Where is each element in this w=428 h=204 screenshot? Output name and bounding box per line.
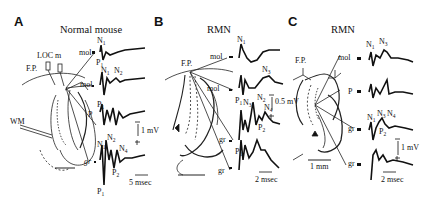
panel-b: B RMN xyxy=(145,0,285,204)
peak-n1: N1 xyxy=(367,114,376,123)
label-p: P xyxy=(348,88,352,96)
panel-c-cerebellum-diagram xyxy=(283,0,428,204)
panel-c: C RMN xyxy=(283,0,428,204)
label-gr-2: gr xyxy=(218,167,225,175)
label-mol-2: mol xyxy=(207,85,219,93)
label-mol-2: mol xyxy=(80,81,92,89)
peak-n1: N1 xyxy=(237,36,246,45)
peak-p2: P2 xyxy=(379,128,386,137)
peak-p1: P1 xyxy=(235,97,242,106)
peak-p1: P1 xyxy=(235,148,242,157)
peak-n4: N4 xyxy=(119,145,128,154)
peak-n4: N4 xyxy=(387,110,396,119)
peak-n1: N1 xyxy=(97,37,106,46)
panel-a-cerebellum-diagram xyxy=(0,0,145,204)
label-gr-2: gr xyxy=(348,160,355,168)
peak-n2: N2 xyxy=(257,94,266,103)
peak-p1: P1 xyxy=(97,188,104,197)
label-p: P xyxy=(88,111,92,119)
peak-n2: N2 xyxy=(107,134,116,143)
peak-n1: N1 xyxy=(97,141,106,150)
label-fp: F.P. xyxy=(181,60,192,68)
peak-n1: N1 xyxy=(366,41,375,50)
scale-time-c: 2 msec xyxy=(381,176,403,184)
scale-length-c: 1 mm xyxy=(310,163,328,171)
label-fp: F.P. xyxy=(26,65,37,73)
peak-n2: N2 xyxy=(114,67,123,76)
label-wm: WM xyxy=(10,118,25,126)
panel-a: A Normal mouse xyxy=(0,0,145,204)
scale-time-b: 2 msec xyxy=(255,176,277,184)
peak-n4: N4 xyxy=(264,104,273,113)
peak-n3: N3 xyxy=(377,110,386,119)
label-gr: gr xyxy=(84,158,91,166)
label-mol: mol xyxy=(338,54,350,62)
label-mol-1: mol xyxy=(79,49,91,57)
label-mol-1: mol xyxy=(210,53,222,61)
peak-n3: N3 xyxy=(243,99,252,108)
label-gr-1: gr xyxy=(219,136,226,144)
peak-n3: N3 xyxy=(379,38,388,47)
peak-p1: P1 xyxy=(97,101,104,110)
peak-n1: N1 xyxy=(101,67,110,76)
label-fp: F.P. xyxy=(295,57,306,65)
peak-p2: P2 xyxy=(258,124,265,133)
peak-p2: P2 xyxy=(112,169,119,178)
scale-voltage-c: 1 mV xyxy=(401,144,419,152)
peak-n3: N3 xyxy=(262,66,271,75)
label-gr-1: gr xyxy=(348,125,355,133)
label-loc-m: LOC m xyxy=(37,52,61,60)
